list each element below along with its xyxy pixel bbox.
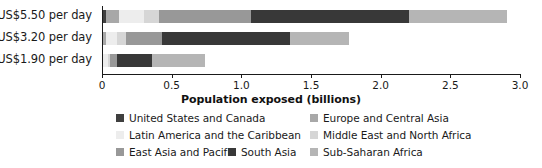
legend-label: East Asia and Pacific [129, 146, 236, 158]
legend-item[interactable]: Latin America and the Caribbean [116, 129, 301, 141]
legend-label: United States and Canada [129, 112, 265, 124]
legend-label: South Asia [241, 146, 296, 158]
legend-label: Middle East and North Africa [323, 129, 471, 141]
bar-segment [409, 10, 508, 23]
legend-label: Latin America and the Caribbean [129, 129, 301, 141]
legend-swatch-icon [116, 114, 124, 122]
bar-segment [290, 32, 349, 45]
legend-swatch-icon [310, 148, 318, 156]
legend-label: Europe and Central Asia [323, 112, 449, 124]
legend-item[interactable]: United States and Canada [116, 112, 265, 124]
x-tick-label: 1.5 [303, 79, 320, 91]
bar-segment [110, 54, 117, 67]
x-tick-mark [241, 74, 242, 78]
legend-label: Sub-Saharan Africa [323, 146, 423, 158]
x-tick-label: 2.0 [372, 79, 389, 91]
bar-segment [106, 32, 117, 45]
x-tick-label: 0.5 [163, 79, 180, 91]
category-label: US$1.90 per day [0, 52, 92, 66]
category-label: US$5.50 per day [0, 8, 92, 22]
x-tick-label: 0 [99, 79, 106, 91]
x-axis-title: Population exposed (billions) [0, 93, 542, 106]
x-tick-mark [520, 74, 521, 78]
bar-segment [162, 32, 290, 45]
chart-legend: United States and CanadaEurope and Centr… [0, 112, 542, 168]
x-tick-mark [172, 74, 173, 78]
x-tick-label: 2.5 [442, 79, 459, 91]
legend-item[interactable]: Europe and Central Asia [310, 112, 449, 124]
legend-swatch-icon [310, 114, 318, 122]
bar-segment [119, 10, 144, 23]
legend-swatch-icon [228, 148, 236, 156]
bar-segment [152, 54, 205, 67]
legend-item[interactable]: East Asia and Pacific [116, 146, 236, 158]
bar-segment [126, 32, 162, 45]
x-tick-label: 3.0 [512, 79, 529, 91]
bar-segment [159, 10, 251, 23]
x-tick-mark [311, 74, 312, 78]
legend-item[interactable]: Sub-Saharan Africa [310, 146, 423, 158]
legend-swatch-icon [116, 131, 124, 139]
legend-swatch-icon [116, 148, 124, 156]
legend-swatch-icon [310, 131, 318, 139]
bar-segment [251, 10, 408, 23]
bar-segment [117, 54, 152, 67]
plot-area [102, 6, 520, 72]
category-label: US$3.20 per day [0, 30, 92, 44]
x-tick-mark [381, 74, 382, 78]
bar-stack [102, 32, 520, 45]
y-axis-line [102, 6, 103, 74]
x-tick-mark [102, 74, 103, 78]
bar-segment [106, 10, 119, 23]
category-axis-labels: US$5.50 per dayUS$3.20 per dayUS$1.90 pe… [0, 6, 98, 72]
stacked-bar-chart: US$5.50 per dayUS$3.20 per dayUS$1.90 pe… [0, 0, 542, 168]
legend-item[interactable]: Middle East and North Africa [310, 129, 471, 141]
legend-item[interactable]: South Asia [228, 146, 296, 158]
bar-stack [102, 54, 520, 67]
x-tick-label: 1.0 [233, 79, 250, 91]
bar-segment [144, 10, 159, 23]
bar-segment [117, 32, 125, 45]
x-tick-mark [450, 74, 451, 78]
bar-stack [102, 10, 520, 23]
